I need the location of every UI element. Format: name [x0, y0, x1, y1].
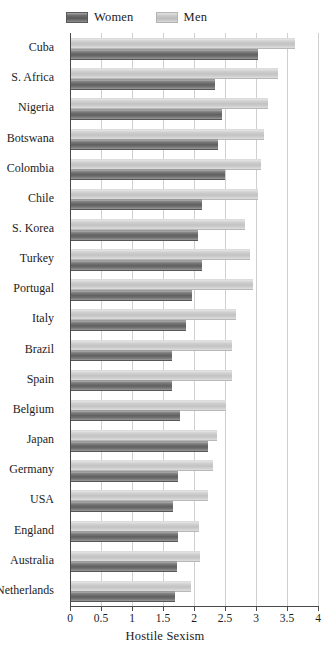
bar-men	[70, 159, 261, 170]
x-tick-mark	[225, 606, 226, 611]
category-label: S. Africa	[11, 70, 54, 85]
x-tick-mark	[318, 606, 319, 611]
bar-women	[70, 471, 178, 482]
bar-men	[70, 189, 258, 200]
bar-women	[70, 49, 258, 60]
gridline	[318, 33, 319, 606]
chart-row: Germany	[70, 455, 318, 485]
chart-row: S. Africa	[70, 63, 318, 93]
category-label: England	[14, 523, 54, 538]
bar-women	[70, 561, 177, 572]
x-tick-mark	[70, 606, 71, 611]
x-tick-label: 3.5	[280, 612, 294, 624]
bar-men	[70, 68, 278, 79]
chart-row: Colombia	[70, 154, 318, 184]
bar-women	[70, 169, 225, 180]
chart-row: Turkey	[70, 244, 318, 274]
legend-swatch-men-icon	[156, 12, 178, 23]
plot-area: CubaS. AfricaNigeriaBotswanaColombiaChil…	[70, 33, 318, 606]
bar-men	[70, 370, 232, 381]
x-tick-mark	[287, 606, 288, 611]
x-tick-mark	[163, 606, 164, 611]
chart-row: Belgium	[70, 395, 318, 425]
bar-women	[70, 320, 186, 331]
bar-men	[70, 430, 217, 441]
chart-row: Netherlands	[70, 576, 318, 606]
bar-women	[70, 230, 198, 241]
category-label: Germany	[9, 462, 54, 477]
bar-women	[70, 350, 172, 361]
bar-men	[70, 490, 208, 501]
bar-men	[70, 98, 268, 109]
x-tick-label: 4	[315, 612, 321, 624]
category-label: S. Korea	[12, 221, 54, 236]
bar-women	[70, 441, 208, 452]
bar-men	[70, 309, 236, 320]
chart-row: USA	[70, 485, 318, 515]
chart-row: Portugal	[70, 274, 318, 304]
bar-men	[70, 581, 191, 592]
bar-men	[70, 129, 264, 140]
category-label: Turkey	[20, 251, 54, 266]
chart-row: Cuba	[70, 33, 318, 63]
bar-women	[70, 501, 173, 512]
bar-men	[70, 249, 250, 260]
category-label: Belgium	[13, 402, 54, 417]
x-tick-label: 1	[129, 612, 135, 624]
bar-men	[70, 400, 226, 411]
bar-men	[70, 279, 253, 290]
bar-women	[70, 531, 178, 542]
legend-swatch-women-icon	[66, 12, 88, 23]
category-label: USA	[30, 492, 54, 507]
category-label: Chile	[28, 191, 54, 206]
bar-women	[70, 380, 172, 391]
x-tick-mark	[194, 606, 195, 611]
x-tick-label: 0.5	[94, 612, 108, 624]
chart-row: Australia	[70, 546, 318, 576]
bar-men	[70, 340, 232, 351]
chart-row: England	[70, 516, 318, 546]
y-axis-line	[70, 33, 71, 607]
category-label: Australia	[10, 553, 54, 568]
bar-men	[70, 460, 213, 471]
category-label: Nigeria	[18, 100, 54, 115]
x-tick-label: 2	[191, 612, 197, 624]
legend-entry-men: Men	[156, 10, 208, 25]
bar-women	[70, 139, 218, 150]
x-tick-label: 1.5	[156, 612, 170, 624]
legend-entry-women: Women	[66, 10, 134, 25]
chart-row: Japan	[70, 425, 318, 455]
chart-legend: Women Men	[0, 6, 330, 28]
category-label: Japan	[27, 432, 54, 447]
bar-women	[70, 260, 202, 271]
bar-women	[70, 410, 180, 421]
chart-row: Chile	[70, 184, 318, 214]
bar-women	[70, 591, 175, 602]
x-tick-mark	[101, 606, 102, 611]
chart-row: Italy	[70, 304, 318, 334]
chart-row: S. Korea	[70, 214, 318, 244]
bar-men	[70, 219, 245, 230]
chart-row: Spain	[70, 365, 318, 395]
category-label: Netherlands	[0, 583, 54, 598]
chart-row: Brazil	[70, 335, 318, 365]
category-label: Italy	[32, 311, 54, 326]
category-label: Colombia	[7, 161, 54, 176]
category-label: Portugal	[13, 281, 54, 296]
category-label: Botswana	[7, 131, 54, 146]
legend-label-women: Women	[94, 10, 134, 25]
x-tick-label: 2.5	[218, 612, 232, 624]
chart-row: Botswana	[70, 123, 318, 153]
bar-men	[70, 521, 199, 532]
bar-women	[70, 290, 192, 301]
x-tick-label: 0	[67, 612, 73, 624]
bar-women	[70, 79, 215, 90]
legend-label-men: Men	[184, 10, 208, 25]
bar-men	[70, 551, 200, 562]
bar-men	[70, 38, 295, 49]
category-label: Spain	[27, 372, 54, 387]
x-tick-label: 3	[253, 612, 259, 624]
bar-women	[70, 199, 202, 210]
x-tick-mark	[256, 606, 257, 611]
x-tick-mark	[132, 606, 133, 611]
